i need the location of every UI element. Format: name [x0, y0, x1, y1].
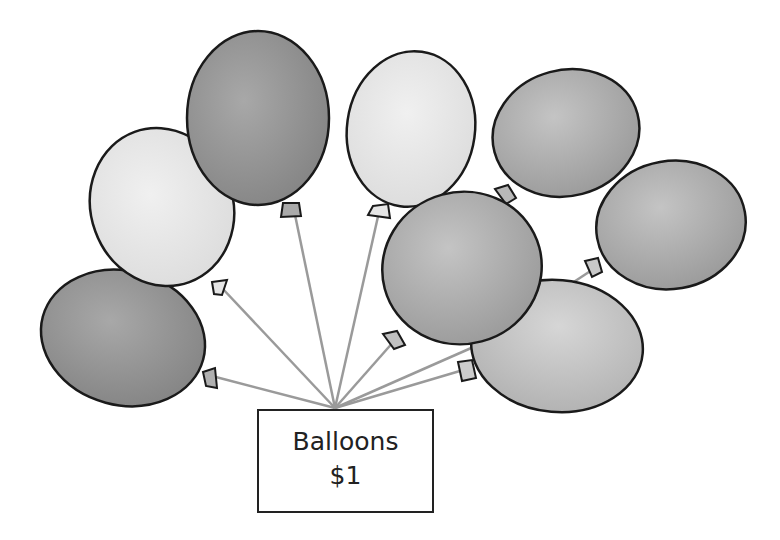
- sign-title: Balloons: [259, 425, 432, 459]
- sign-price: $1: [259, 459, 432, 493]
- price-sign: Balloons $1: [257, 409, 434, 513]
